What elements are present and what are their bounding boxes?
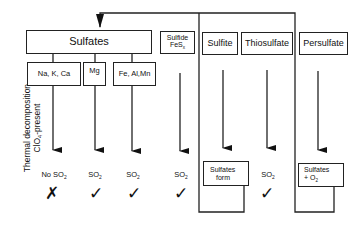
sulfide-box: Sulfide FeSx (160, 31, 195, 54)
axis-label-thermal-decomposition: Thermal decomposition ClO4-present (23, 73, 43, 183)
outcome-text-4: SO2 (256, 170, 280, 180)
check-mark-icon: ✓ (84, 183, 108, 204)
check-mark-icon: ✓ (122, 183, 146, 204)
thiosulfate-box: Thiosulfate (241, 32, 293, 55)
sulfates-o2-box: Sulfates + O2 (298, 163, 344, 187)
outcome-text-0: No SO2 (36, 170, 72, 180)
outcome-text-3: SO2 (169, 170, 193, 180)
sulfate-type-na-k-ca: Na, K, Ca (27, 62, 81, 86)
sulfates-box: Sulfates (26, 30, 152, 54)
check-mark-icon: ✓ (169, 183, 193, 204)
sulfates-form-box: Sulfates form (203, 161, 249, 186)
outcome-text-1: SO2 (83, 170, 107, 180)
sulfate-type-mg: Mg (83, 62, 106, 86)
sulfite-box: Sulfite (202, 32, 238, 55)
persulfate-box: Persulfate (299, 32, 348, 55)
check-mark-icon: ✓ (255, 183, 279, 204)
x-mark-icon: ✗ (40, 183, 64, 204)
sulfate-type-fe-al-mn: Fe, Al,Mn (113, 62, 156, 86)
outcome-text-2: SO2 (121, 170, 145, 180)
